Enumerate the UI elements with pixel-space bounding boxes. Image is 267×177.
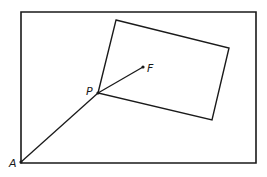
segment-AP [21,93,98,162]
geometry-diagram: A P F [0,0,267,177]
outer-rectangle [21,12,256,163]
segment-PF [98,67,143,93]
point-P [96,91,99,94]
point-A [19,160,22,163]
inner-rotated-rectangle [98,20,229,120]
point-F [141,65,144,68]
label-P: P [86,85,93,98]
label-F: F [147,62,154,75]
label-A: A [8,157,17,170]
